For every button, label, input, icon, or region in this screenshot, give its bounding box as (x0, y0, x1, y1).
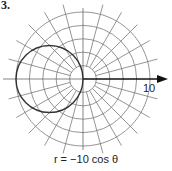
grid-spoke (86, 5, 102, 66)
grid-spoke (29, 25, 74, 70)
grid-spoke (86, 92, 102, 153)
grid-spoke (92, 88, 137, 133)
polar-axis-arrow-icon (157, 75, 168, 83)
grid-spoke (63, 92, 79, 153)
grid-spoke (92, 25, 137, 70)
equation-caption: r = −10 cos θ (0, 153, 172, 165)
grid-spoke (63, 5, 79, 66)
axis-tick-10: 10 (143, 82, 155, 94)
grid-spoke (96, 59, 157, 75)
grid-spoke (29, 88, 74, 133)
